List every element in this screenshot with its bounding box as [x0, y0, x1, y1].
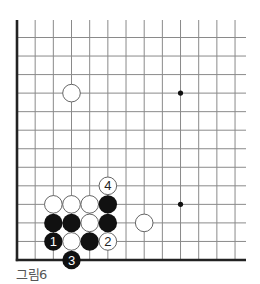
move-number: 1 [50, 234, 57, 249]
black-stone [99, 214, 117, 232]
black-stone-1: 1 [44, 232, 62, 250]
black-stone [80, 232, 98, 250]
white-stone [63, 84, 81, 102]
white-stone-body [63, 84, 81, 102]
black-stone [44, 214, 62, 232]
black-stone-3: 3 [62, 251, 80, 269]
black-stone [99, 195, 117, 213]
black-stone-body [99, 195, 117, 213]
figure-caption: 그림6 [16, 264, 47, 283]
white-stone [81, 196, 99, 214]
star-point [178, 202, 183, 207]
white-stone-body [135, 214, 153, 232]
star-point [178, 91, 183, 96]
white-stone [63, 233, 81, 251]
move-number: 3 [68, 253, 75, 268]
white-stone-body [81, 214, 99, 232]
white-stone [45, 196, 63, 214]
move-number: 4 [104, 178, 111, 193]
white-stone [63, 196, 81, 214]
black-stone-body [44, 214, 62, 232]
move-number: 2 [104, 234, 111, 249]
white-stone-body [63, 196, 81, 214]
black-stone-body [62, 214, 80, 232]
white-stone-body [63, 233, 81, 251]
white-stone-2: 2 [99, 233, 117, 251]
white-stone-body [45, 196, 63, 214]
go-board-diagram: 4123 [0, 0, 260, 284]
black-stone-body [99, 214, 117, 232]
black-stone [62, 214, 80, 232]
white-stone-body [81, 196, 99, 214]
white-stone-4: 4 [99, 177, 117, 195]
white-stone [135, 214, 153, 232]
white-stone [81, 214, 99, 232]
black-stone-body [80, 232, 98, 250]
